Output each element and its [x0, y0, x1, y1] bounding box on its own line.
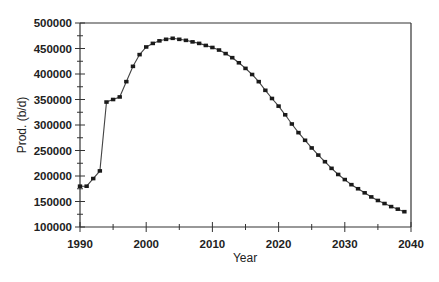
- data-point-marker: [91, 177, 95, 181]
- x-tick-label: 2000: [133, 238, 159, 250]
- data-point-marker: [210, 46, 214, 50]
- y-tick-label: 500000: [34, 17, 72, 29]
- y-axis-ticks: 1000001500002000002500003000003500004000…: [34, 17, 85, 233]
- production-line-chart: 1000001500002000002500003000003500004000…: [0, 0, 439, 282]
- data-point-marker: [151, 42, 155, 46]
- data-point-marker: [177, 38, 181, 42]
- data-point-marker: [362, 191, 366, 195]
- data-point-marker: [217, 48, 221, 52]
- data-point-marker: [329, 167, 333, 171]
- data-point-marker: [323, 160, 327, 164]
- data-point-marker: [137, 53, 141, 57]
- data-point-marker: [78, 184, 82, 188]
- x-tick-label: 2030: [332, 238, 358, 250]
- data-point-marker: [131, 65, 135, 69]
- y-axis-title: Prod. (b/d): [15, 97, 29, 154]
- data-point-marker: [356, 187, 360, 191]
- data-point-marker: [84, 184, 88, 188]
- data-point-marker: [283, 113, 287, 117]
- data-point-marker: [170, 37, 174, 41]
- y-tick-label: 350000: [34, 94, 72, 106]
- data-point-marker: [263, 89, 267, 93]
- plot-frame: [80, 23, 411, 227]
- y-tick-label: 400000: [34, 68, 72, 80]
- data-point-marker: [310, 146, 314, 150]
- data-point-marker: [343, 178, 347, 182]
- x-tick-label: 2040: [398, 238, 424, 250]
- data-point-marker: [290, 122, 294, 126]
- x-axis-ticks: 199020002010202020302040: [67, 222, 424, 250]
- data-point-marker: [204, 44, 208, 48]
- x-tick-label: 2010: [200, 238, 226, 250]
- data-point-marker: [230, 56, 234, 60]
- data-point-marker: [197, 42, 201, 46]
- data-point-marker: [336, 173, 340, 177]
- data-point-marker: [270, 97, 274, 101]
- y-tick-label: 450000: [34, 43, 72, 55]
- data-point-marker: [124, 80, 128, 84]
- data-point-marker: [257, 80, 261, 84]
- data-point-marker: [296, 131, 300, 135]
- data-point-marker: [369, 195, 373, 199]
- data-point-marker: [98, 169, 102, 173]
- data-point-marker: [349, 183, 353, 187]
- data-point-marker: [250, 73, 254, 77]
- data-point-marker: [237, 61, 241, 65]
- data-point-marker: [118, 95, 122, 99]
- y-tick-label: 150000: [34, 196, 72, 208]
- data-series: [78, 37, 407, 214]
- x-tick-label: 1990: [67, 238, 93, 250]
- data-point-marker: [243, 67, 247, 71]
- data-point-marker: [111, 98, 115, 102]
- data-point-marker: [376, 199, 380, 203]
- data-point-marker: [316, 153, 320, 157]
- y-tick-label: 300000: [34, 119, 72, 131]
- series-line: [80, 38, 404, 211]
- x-axis-title: Year: [233, 251, 257, 265]
- data-point-marker: [144, 45, 148, 49]
- y-tick-label: 100000: [34, 221, 72, 233]
- data-point-marker: [276, 104, 280, 108]
- data-point-marker: [396, 207, 400, 211]
- y-tick-label: 250000: [34, 145, 72, 157]
- y-tick-label: 200000: [34, 170, 72, 182]
- data-point-marker: [164, 38, 168, 42]
- x-tick-label: 2020: [266, 238, 292, 250]
- data-point-marker: [190, 40, 194, 44]
- data-point-marker: [389, 205, 393, 209]
- data-point-marker: [184, 39, 188, 43]
- data-point-marker: [223, 52, 227, 56]
- data-point-marker: [157, 39, 161, 43]
- data-point-marker: [402, 210, 406, 214]
- data-point-marker: [382, 202, 386, 206]
- data-point-marker: [104, 100, 108, 104]
- data-point-marker: [303, 139, 307, 143]
